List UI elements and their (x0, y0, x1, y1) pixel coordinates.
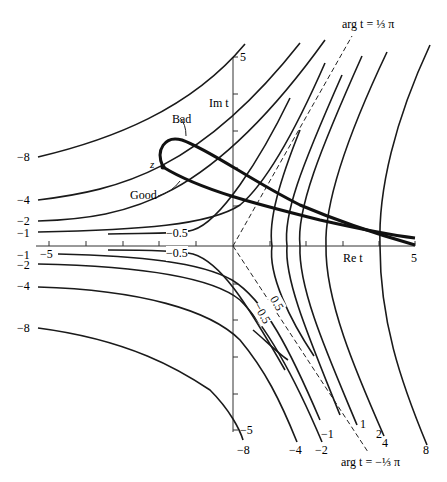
y-axis-label: Im t (209, 96, 229, 111)
left-label: −8 (17, 150, 30, 165)
left-label: −4 (17, 193, 30, 208)
left-label: −2 (17, 258, 30, 273)
x-axis-label: Re t (343, 251, 363, 266)
z-label: z (150, 158, 154, 170)
asymptote-upper-label: arg t = ⅓ π (342, 17, 394, 32)
bottom-label: 8 (423, 443, 429, 458)
y-min-label: −5 (240, 423, 253, 438)
bottom-label: 4 (382, 436, 388, 451)
bottom-label: −8 (237, 443, 250, 458)
x-max-label: 5 (411, 251, 417, 266)
bottom-label: −2 (315, 443, 328, 458)
bad-label: Bad (172, 112, 191, 127)
bottom-label: −1 (321, 427, 334, 442)
y-max-label: 5 (240, 50, 246, 65)
bottom-label: −4 (289, 443, 302, 458)
good-label: Good (130, 188, 157, 203)
left-label: −4 (17, 279, 30, 294)
inner-label: −0.5 (166, 226, 188, 241)
asymptote-lower-label: arg t = −⅓ π (341, 455, 400, 470)
x-min-label: −5 (40, 247, 53, 262)
left-label: −8 (17, 321, 30, 336)
inner-label: −0.5 (166, 246, 188, 261)
bottom-label: 1 (360, 417, 366, 432)
left-label: −1 (17, 226, 30, 241)
